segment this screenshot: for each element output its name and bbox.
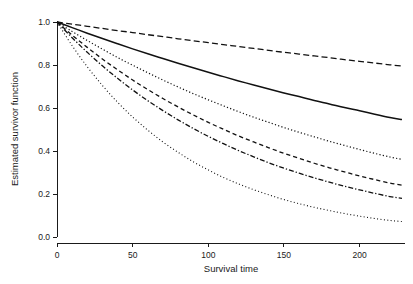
chart-canvas: 0.00.20.40.60.81.0 050100150200 Survival… — [0, 0, 413, 284]
curve-6-finedotted — [57, 22, 402, 222]
y-axis-title: Estimated survivor function — [9, 72, 20, 186]
y-tick-label: 0.4 — [38, 146, 50, 156]
x-tick-label: 0 — [55, 250, 60, 260]
y-tick-label: 0.2 — [38, 189, 50, 199]
x-axis-ticks: 050100150200 — [55, 243, 367, 260]
y-tick-label: 0.6 — [38, 103, 50, 113]
y-axis-ticks: 0.00.20.40.60.81.0 — [38, 17, 57, 242]
y-tick-label: 1.0 — [38, 17, 50, 27]
survival-curves-group — [57, 22, 402, 222]
x-tick-label: 50 — [128, 250, 138, 260]
curve-4-dashed — [57, 22, 402, 185]
x-tick-label: 100 — [201, 250, 215, 260]
x-axis-title: Survival time — [204, 263, 258, 274]
curve-3-dotted — [57, 22, 402, 159]
curve-1-longdash — [57, 22, 402, 66]
x-tick-label: 200 — [353, 250, 367, 260]
x-tick-label: 150 — [277, 250, 291, 260]
y-tick-label: 0.8 — [38, 60, 50, 70]
survival-curve-figure: 0.00.20.40.60.81.0 050100150200 Survival… — [0, 0, 413, 284]
curve-5-dashdot — [57, 22, 402, 198]
y-tick-label: 0.0 — [38, 232, 50, 242]
curve-2-solid — [57, 22, 402, 120]
